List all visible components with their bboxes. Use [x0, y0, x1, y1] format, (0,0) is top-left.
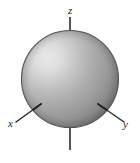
orbital-figure: z x y: [0, 0, 140, 163]
orbital-diagram-svg: z x y: [0, 0, 140, 163]
axis-label-x: x: [7, 117, 13, 129]
axis-label-z: z: [67, 4, 73, 16]
axis-label-y: y: [122, 118, 128, 130]
sphere-body: [22, 31, 119, 128]
